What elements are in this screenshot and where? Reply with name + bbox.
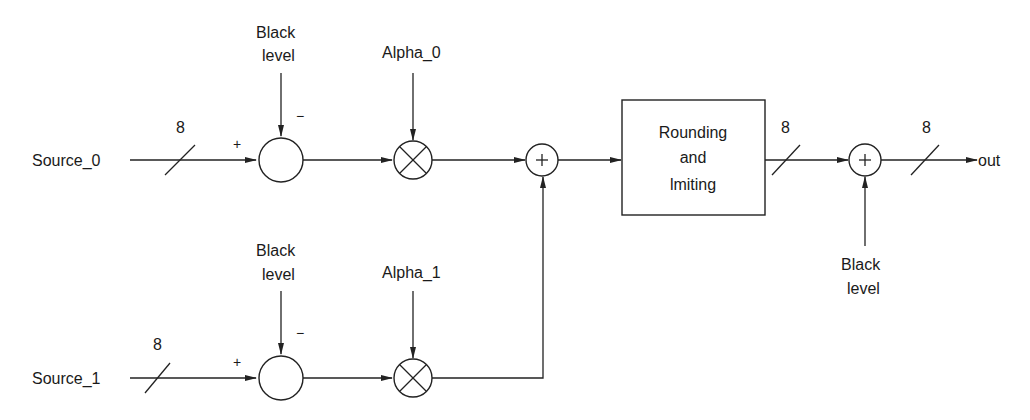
source-1-label: Source_1	[32, 370, 101, 388]
bus-width-source-1: 8	[153, 336, 162, 353]
rounding-block-line3: lmiting	[670, 176, 716, 193]
mixer-block-diagram: Source_0 8 + Black level − Alpha_0 Round…	[0, 0, 1030, 420]
bus-width-output: 8	[922, 119, 931, 136]
subtractor-0-node	[259, 138, 303, 182]
black-level-1-line1: Black	[256, 242, 296, 259]
wire-mul1-sum	[432, 177, 543, 378]
black-level-1-line2: level	[262, 266, 295, 283]
minus-sign: −	[296, 325, 304, 341]
rounding-block-line1: Rounding	[659, 124, 728, 141]
bus-width-source-0: 8	[176, 119, 185, 136]
rounding-block-line2: and	[680, 149, 707, 166]
plus-sign: +	[233, 354, 241, 370]
alpha-0-label: Alpha_0	[382, 44, 441, 62]
black-level-out-line1: Black	[841, 256, 881, 273]
adder-mix-node	[526, 144, 558, 176]
black-level-0-line1: Black	[256, 24, 296, 41]
output-label: out	[978, 152, 1001, 169]
plus-sign: +	[233, 136, 241, 152]
black-level-out-line2: level	[847, 280, 880, 297]
multiplier-1-node	[394, 359, 432, 397]
adder-out-node	[849, 144, 881, 176]
black-level-0-line2: level	[262, 47, 295, 64]
source-0-label: Source_0	[32, 152, 101, 170]
bus-width-after-rounding: 8	[781, 119, 790, 136]
subtractor-1-node	[259, 356, 303, 400]
multiplier-0-node	[394, 141, 432, 179]
alpha-1-label: Alpha_1	[382, 264, 441, 282]
minus-sign: −	[296, 108, 304, 124]
